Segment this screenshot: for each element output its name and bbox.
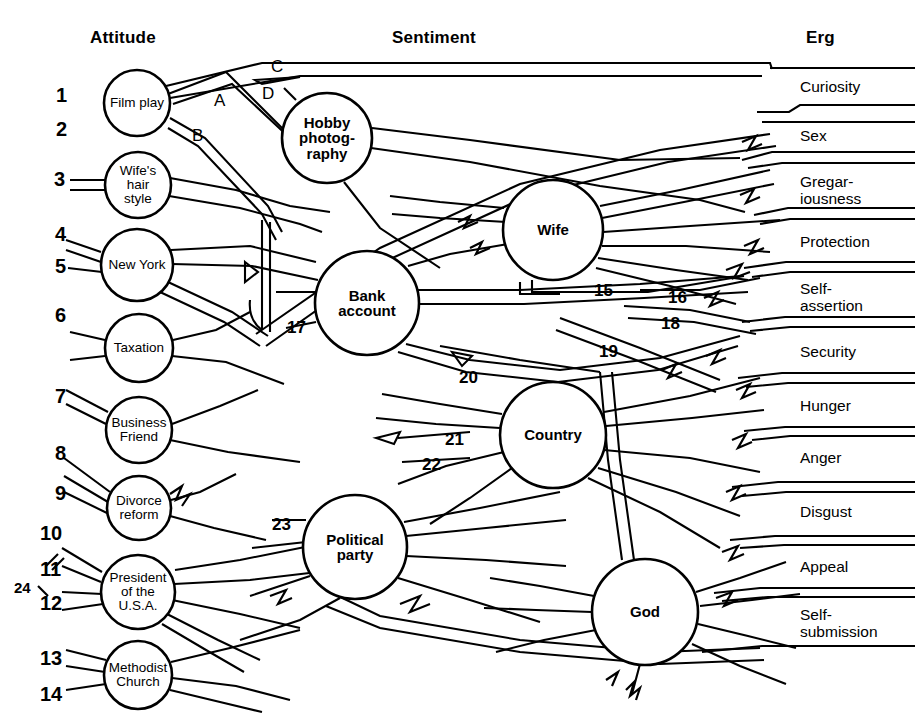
attitude-index-3: 3: [54, 169, 65, 189]
erg-label-curiosity: Curiosity: [800, 79, 860, 96]
attitude-index-5: 5: [55, 256, 66, 276]
dynamic-lattice-figure: .s{fill:none;stroke:#000;stroke-width:2.…: [0, 0, 919, 721]
link-index-15: 15: [594, 282, 613, 299]
sentiment-circle-god: [592, 559, 698, 665]
link-index-23: 23: [272, 516, 291, 533]
erg-label-protection: Protection: [800, 234, 870, 251]
erg-label-sex: Sex: [800, 128, 827, 145]
attitude-index-8: 8: [55, 443, 66, 463]
attitude-index-11: 11: [40, 559, 61, 579]
attitude-index-2: 2: [56, 119, 67, 139]
attitude-circle-wifes-hair: [105, 152, 171, 218]
letter-label-C: C: [271, 58, 283, 75]
attitude-circle-divorce-reform: [107, 476, 171, 540]
link-index-21: 21: [445, 431, 464, 448]
attitude-index-10: 10: [40, 523, 62, 543]
lattice-line-artwork: .s{fill:none;stroke:#000;stroke-width:2.…: [0, 0, 919, 721]
letter-label-D: D: [262, 85, 274, 102]
attitude-index-9: 9: [55, 483, 66, 503]
link-index-20: 20: [459, 369, 478, 386]
erg-label-disgust: Disgust: [800, 504, 852, 521]
letter-label-A: A: [214, 92, 225, 109]
attitude-index-6: 6: [55, 305, 66, 325]
column-heading-attitude: Attitude: [90, 28, 156, 48]
attitude-circle-new-york: [101, 229, 173, 301]
attitude-index-1: 1: [56, 85, 67, 105]
erg-label-hunger: Hunger: [800, 398, 851, 415]
column-heading-erg: Erg: [806, 28, 835, 48]
attitude-index-12: 12: [40, 593, 62, 613]
sentiment-circle-wife: [503, 180, 603, 280]
attitude-circle-taxation: [105, 314, 173, 382]
sentiment-circle-political-party: [303, 495, 407, 599]
link-index-17: 17: [287, 319, 306, 336]
sentiment-circle-country: [500, 382, 606, 488]
attitude-circle-president-usa: [101, 555, 175, 629]
attitude-index-14: 14: [40, 684, 62, 704]
attitude-index-7: 7: [55, 386, 66, 406]
attitude-index-13: 13: [40, 648, 62, 668]
column-heading-sentiment: Sentiment: [392, 28, 476, 48]
link-index-16: 16: [668, 289, 687, 306]
attitude-circle-film-play: [104, 70, 170, 136]
erg-label-self-assertion: Self- assertion: [800, 281, 863, 314]
erg-label-security: Security: [800, 344, 856, 361]
erg-label-gregariousness: Gregar- iousness: [800, 174, 861, 207]
attitude-index-24: 24: [14, 580, 31, 595]
sentiment-circle-bank-account: [315, 251, 419, 355]
link-index-19: 19: [599, 343, 618, 360]
erg-label-self-submission: Self- submission: [800, 607, 878, 640]
link-index-18: 18: [661, 315, 680, 332]
attitude-circle-methodist-church: [104, 641, 172, 709]
sentiment-circle-hobby-photography: [282, 93, 372, 183]
letter-label-B: B: [192, 127, 203, 144]
erg-label-appeal: Appeal: [800, 559, 848, 576]
link-index-22: 22: [422, 456, 441, 473]
attitude-index-4: 4: [55, 224, 66, 244]
erg-label-anger: Anger: [800, 450, 841, 467]
attitude-circle-business-friend: [106, 397, 172, 463]
node-circles: [101, 70, 698, 709]
